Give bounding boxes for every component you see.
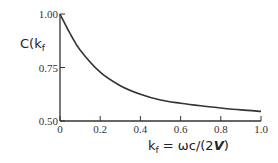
x-ticks: 00.20.40.60.81.0 bbox=[57, 116, 268, 135]
x-tick-label: 0.2 bbox=[93, 123, 107, 135]
y-tick-label: 1.00 bbox=[39, 8, 59, 20]
x-tick-label: 0.6 bbox=[174, 123, 188, 135]
y-tick-label: 0.50 bbox=[39, 115, 59, 127]
x-axis-label: kf = ωc/(2V) bbox=[148, 138, 229, 155]
y-axis-label: C(kf bbox=[20, 36, 46, 53]
y-ticks: 0.500.751.00 bbox=[39, 8, 65, 127]
y-tick-label: 0.75 bbox=[39, 62, 59, 74]
x-tick-label: 0 bbox=[57, 123, 63, 135]
x-tick-label: 0.8 bbox=[214, 123, 228, 135]
x-tick-label: 1.0 bbox=[254, 123, 268, 135]
x-tick-label: 0.4 bbox=[134, 123, 148, 135]
chart: 0.500.751.00 00.20.40.60.81.0 C(kf kf = … bbox=[0, 0, 278, 163]
axes bbox=[60, 14, 261, 121]
curve-line bbox=[60, 14, 261, 111]
